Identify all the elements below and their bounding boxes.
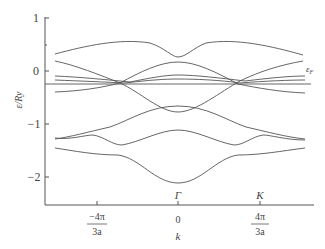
- x-tick-zero: 0: [176, 214, 181, 225]
- y-tick-label-m2: −2: [28, 170, 41, 184]
- x-tick-neg-num: −4π: [89, 211, 105, 222]
- fermi-label: εF: [306, 64, 314, 75]
- x-tick-neg-den: 3a: [92, 226, 102, 237]
- axes: [45, 17, 314, 205]
- band-1: [55, 148, 305, 183]
- band-8: [55, 41, 303, 57]
- x-tick-pos-den: 3a: [255, 226, 265, 237]
- band-3: [55, 106, 305, 139]
- y-tick-label-m1: −1: [28, 117, 41, 131]
- band-4: [55, 61, 303, 112]
- x-tick-pos-num: 4π: [255, 211, 265, 222]
- bands: [45, 41, 311, 183]
- y-tick-label-0: 0: [33, 64, 39, 78]
- fermi-label-subscript: F: [309, 69, 314, 75]
- y-axis-label: ε/Ry: [13, 91, 24, 109]
- band-structure-chart: 1 0 −1 −2 ε/Ry Γ K −4π 3a 0 k 4π 3a εF: [0, 0, 325, 249]
- x-axis-label: k: [176, 230, 182, 242]
- gamma-label: Γ: [174, 189, 182, 201]
- k-point-label: K: [255, 189, 264, 201]
- y-tick-label-1: 1: [33, 11, 39, 25]
- band-6: [55, 79, 305, 83]
